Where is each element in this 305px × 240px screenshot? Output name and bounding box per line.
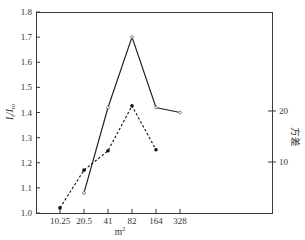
data-point xyxy=(131,36,134,39)
data-point xyxy=(130,104,134,108)
data-point xyxy=(106,149,110,153)
y-tick-label: 1.0 xyxy=(21,208,33,218)
x-tick-label: 164 xyxy=(149,216,163,226)
x-axis-title: m2 xyxy=(115,225,126,237)
plot-frame xyxy=(36,12,273,214)
data-series xyxy=(58,36,181,210)
x-tick-label: 20.5 xyxy=(76,216,92,226)
y-tick-label: 1.2 xyxy=(21,158,32,168)
y-tick-label: 1.8 xyxy=(21,7,33,17)
y-tick-label: 1.1 xyxy=(21,183,32,193)
data-point xyxy=(107,106,110,109)
variance-line xyxy=(60,106,156,208)
x-ticks: 10.2520.54182164328 xyxy=(50,209,187,226)
left-y-ticks: 1.01.11.21.31.41.51.61.71.8 xyxy=(21,7,40,218)
y-tick-label: 1.4 xyxy=(21,108,33,118)
y2-tick-label: 20 xyxy=(279,106,289,116)
x-axis-title-superscript: 2 xyxy=(122,225,125,232)
x-tick-label: 41 xyxy=(104,216,113,226)
data-point xyxy=(154,148,158,152)
data-point xyxy=(82,168,86,172)
right-y-ticks: 1020 xyxy=(268,106,289,167)
ylabel-sub: to xyxy=(9,103,16,109)
data-point xyxy=(179,111,182,114)
y-tick-label: 1.6 xyxy=(21,57,33,67)
data-point xyxy=(58,206,62,210)
y-tick-label: 1.3 xyxy=(21,133,33,143)
left-y-axis-title: It/Ito xyxy=(5,103,16,121)
chart: 1.01.11.21.31.41.51.61.71.8 1020 10.2520… xyxy=(0,0,305,240)
y-tick-label: 1.7 xyxy=(21,32,33,42)
ratio-line xyxy=(84,37,180,193)
data-point xyxy=(155,106,158,109)
y-tick-label: 1.5 xyxy=(21,82,33,92)
y2-tick-label: 10 xyxy=(279,157,289,167)
right-y-axis-title: 方差 xyxy=(290,127,301,147)
data-point xyxy=(83,192,86,195)
x-tick-label: 328 xyxy=(173,216,187,226)
x-tick-label: 10.25 xyxy=(50,216,71,226)
x-tick-label: 82 xyxy=(128,216,137,226)
